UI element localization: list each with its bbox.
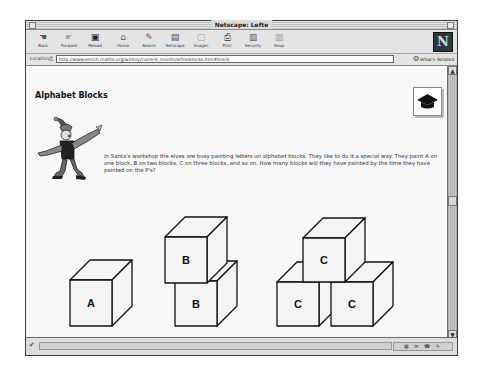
close-box[interactable] — [29, 22, 36, 29]
block-a-letter: A — [87, 297, 95, 309]
home-button[interactable]: ⌂ Home — [112, 32, 134, 52]
url-input[interactable]: http://www.enrich.maths.org/wmtoy/curren… — [56, 55, 394, 63]
browser-window: Netscape: Lefte ☚ Back ☛ Forward ▣ Reloa… — [25, 20, 458, 356]
netscape-icon: ▤ — [170, 32, 180, 42]
security-lock-icon[interactable]: ✔ — [29, 341, 35, 349]
whats-related-button[interactable]: ❂What's Related — [413, 55, 454, 64]
forward-button[interactable]: ☛ Forward — [58, 32, 80, 52]
forward-icon: ☛ — [64, 32, 74, 42]
graduation-cap-icon — [414, 88, 441, 115]
block-b-top-letter: B — [182, 254, 190, 266]
alphabet-blocks-illustration: A B B C C C — [26, 186, 447, 336]
block-b-bottom-letter: B — [192, 298, 200, 310]
reload-icon: ▣ — [90, 32, 100, 42]
block-c-left-letter: C — [294, 298, 302, 310]
home-link-button[interactable] — [413, 87, 442, 116]
zoom-box[interactable] — [447, 22, 454, 29]
netscape-button[interactable]: ▤ Netscape — [164, 32, 186, 52]
shop-icon: ▥ — [274, 32, 284, 42]
whats-related-icon: ❂ — [413, 55, 419, 63]
images-button[interactable]: ▢ Images — [190, 32, 212, 52]
home-icon: ⌂ — [118, 32, 128, 42]
search-icon: ✎ — [144, 32, 154, 42]
reload-button[interactable]: ▣ Reload — [84, 32, 106, 52]
block-a — [70, 260, 132, 326]
page-title: Alphabet Blocks — [35, 91, 108, 100]
bookmark-icon[interactable]: ⚓ — [48, 55, 54, 63]
elf-illustration — [36, 113, 104, 183]
back-button[interactable]: ☚ Back — [32, 32, 54, 52]
scroll-thumb[interactable] — [448, 196, 457, 206]
security-button[interactable]: ▥ Security — [242, 32, 264, 52]
back-icon: ☚ — [38, 32, 48, 42]
component-bar[interactable]: ▦ ✉ ☎ ✎ — [393, 342, 453, 351]
problem-text: In Santa's workshop the elves are busy p… — [104, 153, 439, 174]
block-c-right-letter: C — [348, 298, 356, 310]
page-content: Alphabet Blocks — [26, 66, 447, 339]
print-button[interactable]: ⎙ Print — [216, 32, 238, 52]
print-icon: ⎙ — [222, 32, 232, 42]
status-text — [39, 342, 392, 350]
vertical-scrollbar[interactable]: ▲ ▼ — [447, 66, 457, 339]
block-c-top-letter: C — [320, 254, 328, 266]
images-icon: ▢ — [196, 32, 206, 42]
navigation-toolbar: ☚ Back ☛ Forward ▣ Reload ⌂ Home ✎ Searc… — [26, 30, 457, 54]
block-b-top — [165, 217, 227, 283]
window-title: Netscape: Lefte — [211, 20, 272, 29]
security-icon: ▥ — [248, 32, 258, 42]
search-button[interactable]: ✎ Search — [138, 32, 160, 52]
title-bar[interactable]: Netscape: Lefte — [26, 21, 457, 30]
shop-button[interactable]: ▥ Shop — [268, 32, 290, 52]
location-bar: Location: ⚓ http://www.enrich.maths.org/… — [26, 54, 457, 66]
status-bar: ✔ ▦ ✉ ☎ ✎ — [26, 337, 457, 355]
scroll-up-arrow[interactable]: ▲ — [448, 66, 457, 75]
netscape-logo[interactable]: N — [433, 32, 453, 52]
